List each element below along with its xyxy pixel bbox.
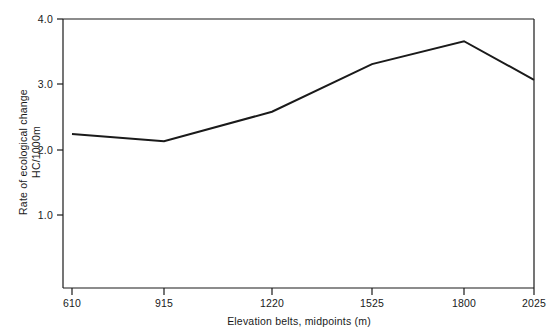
y-axis-tick-labels: 4.0 3.0 2.0 1.0 [38,13,53,221]
y-tick-label-3: 3.0 [38,78,53,90]
data-series-line [72,41,534,141]
x-tick-label-2025: 2025 [522,297,546,309]
y-axis-ticks [57,19,63,215]
chart-figure: 4.0 3.0 2.0 1.0 610 915 1220 1525 1800 2… [0,0,554,332]
line-chart: 4.0 3.0 2.0 1.0 610 915 1220 1525 1800 2… [0,0,554,332]
y-tick-label-4: 4.0 [38,13,53,25]
x-axis-tick-labels: 610 915 1220 1525 1800 2025 [63,297,546,309]
x-tick-label-610: 610 [63,297,81,309]
x-tick-label-1220: 1220 [260,297,284,309]
x-tick-label-915: 915 [155,297,173,309]
y-axis-title-line1: Rate of ecological change [17,89,29,215]
x-tick-label-1800: 1800 [452,297,476,309]
x-tick-label-1525: 1525 [360,297,384,309]
y-axis-title-line2: HC/1000m [30,126,42,178]
x-axis-ticks [72,288,534,295]
x-axis-title: Elevation belts, midpoints (m) [227,315,371,327]
y-tick-label-1: 1.0 [38,209,53,221]
